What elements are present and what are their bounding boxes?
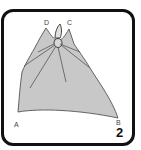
knot xyxy=(54,39,62,48)
knot-tip xyxy=(55,24,62,38)
cloth-shape xyxy=(18,28,118,118)
corner-label-a: A xyxy=(14,121,19,128)
corner-label-d: D xyxy=(44,19,49,26)
step-number: 2 xyxy=(116,126,123,139)
corner-label-c: C xyxy=(67,19,72,26)
